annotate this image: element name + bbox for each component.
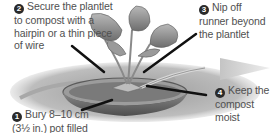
step-3-number-badge: 3	[199, 5, 209, 15]
step-2-number-badge: 2	[14, 4, 24, 14]
step-3-label: 3Nip off runner beyond the plantlet	[199, 1, 269, 40]
step-2-label: 2Secure the plantlet to compost with a h…	[14, 0, 114, 52]
step-2-text: Secure the plantlet to compost with a ha…	[14, 0, 113, 51]
step-1-number-badge: 1	[12, 112, 22, 122]
step-3-text: Nip off runner beyond the plantlet	[199, 1, 265, 40]
direction-arrow	[220, 58, 270, 80]
step-1-text: Bury 8–10 cm (3½ in.) pot filled	[12, 108, 89, 133]
step-4-number-badge: 4	[215, 88, 225, 98]
step-4-label: 4Keep the compost moist	[215, 84, 275, 123]
step-1-label: 1Bury 8–10 cm (3½ in.) pot filled	[12, 108, 102, 133]
